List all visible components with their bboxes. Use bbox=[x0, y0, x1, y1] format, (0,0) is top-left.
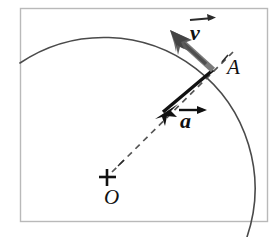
label-acceleration-vector: a bbox=[180, 110, 191, 132]
figure-frame bbox=[21, 9, 268, 222]
center-accent-tick bbox=[118, 160, 124, 166]
circle-arc bbox=[20, 37, 255, 237]
label-center-o: O bbox=[104, 187, 119, 208]
label-velocity-vector: v bbox=[190, 22, 200, 44]
vector-diagram-svg bbox=[0, 0, 278, 237]
radius-dashed-line bbox=[112, 52, 233, 172]
label-point-a: A bbox=[227, 57, 240, 78]
figure-container: A O v a bbox=[0, 0, 278, 237]
